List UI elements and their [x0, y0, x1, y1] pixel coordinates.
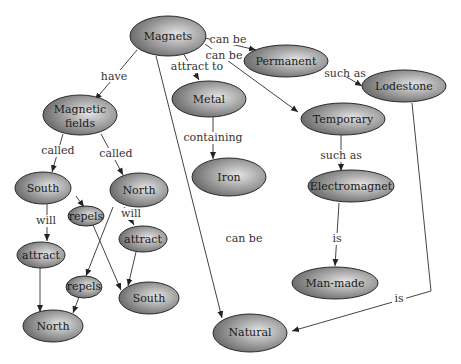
- node-lodestone-label: Lodestone: [375, 80, 433, 93]
- node-iron-label: Iron: [217, 171, 240, 184]
- edge-south-repels: [76, 196, 84, 207]
- node-magnetic-fields-label-2: fields: [65, 117, 95, 130]
- node-metal[interactable]: Metal: [172, 81, 246, 117]
- node-magnetic-fields-label-1: Magnetic: [54, 103, 107, 116]
- node-repels-1-label: repels: [69, 210, 104, 223]
- edge-label-such-as-lodestone: such as: [324, 67, 366, 80]
- node-permanent[interactable]: Permanent: [244, 45, 328, 77]
- node-magnets-label: Magnets: [144, 30, 193, 43]
- node-natural-label: Natural: [228, 326, 272, 339]
- node-repels-2-label: repels: [67, 280, 102, 293]
- node-attract-2-label: attract: [124, 233, 162, 246]
- node-north-top-label: North: [122, 184, 155, 197]
- node-attract-1[interactable]: attract: [17, 242, 65, 268]
- node-attract-2[interactable]: attract: [119, 226, 167, 252]
- node-south-bottom-label: South: [133, 292, 166, 305]
- node-natural[interactable]: Natural: [213, 314, 287, 352]
- node-iron[interactable]: Iron: [192, 158, 266, 196]
- node-temporary[interactable]: Temporary: [301, 103, 385, 135]
- node-temporary-label: Temporary: [313, 113, 374, 126]
- node-north-bottom-label: North: [36, 320, 69, 333]
- edge-label-can-be-permanent: can be: [210, 33, 247, 46]
- concept-map: can be can be attract to have can be suc…: [0, 0, 461, 364]
- edge-label-called-north: called: [99, 147, 132, 160]
- edge-repels-north: [73, 297, 79, 313]
- node-permanent-label: Permanent: [256, 55, 317, 68]
- node-electromagnet[interactable]: Electromagnet: [308, 170, 394, 202]
- node-south-top-label: South: [27, 182, 60, 195]
- node-attract-1-label: attract: [22, 249, 60, 262]
- edge-label-is-manmade: is: [332, 232, 342, 245]
- edge-label-will-south: will: [36, 214, 56, 227]
- node-man-made-label: Man-made: [305, 277, 364, 290]
- node-metal-label: Metal: [193, 93, 226, 106]
- node-magnets[interactable]: Magnets: [130, 16, 206, 56]
- node-north-top[interactable]: North: [110, 173, 168, 207]
- edge-label-is-natural: is: [394, 292, 404, 305]
- edge-attract-south: [128, 252, 136, 286]
- node-man-made[interactable]: Man-made: [292, 267, 378, 299]
- node-repels-1[interactable]: repels: [68, 206, 104, 226]
- node-north-bottom[interactable]: North: [23, 310, 83, 342]
- node-lodestone[interactable]: Lodestone: [362, 70, 446, 102]
- node-south-top[interactable]: South: [15, 172, 71, 204]
- node-repels-2[interactable]: repels: [66, 276, 102, 298]
- node-electromagnet-label: Electromagnet: [310, 180, 393, 193]
- edge-label-can-be-natural: can be: [226, 232, 263, 245]
- edge-label-attract-to: attract to: [171, 60, 224, 73]
- edge-label-will-north: will: [121, 207, 141, 220]
- node-south-bottom[interactable]: South: [119, 282, 179, 314]
- edge-label-have: have: [101, 70, 127, 83]
- nodes: Magnets Permanent Lodestone Metal Iron T…: [15, 16, 446, 352]
- node-magnetic-fields[interactable]: Magnetic fields: [43, 95, 117, 135]
- edge-label-containing: containing: [183, 131, 242, 144]
- edge-label-called-south: called: [41, 144, 74, 157]
- edge-label-such-as-electromagnet: such as: [320, 149, 362, 162]
